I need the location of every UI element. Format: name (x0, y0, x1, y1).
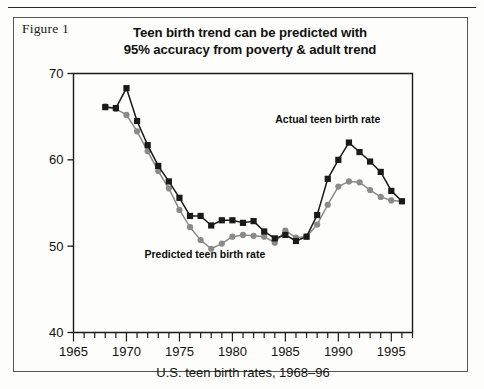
data-point-marker (250, 218, 256, 224)
series-actual (102, 85, 405, 244)
x-axis-tick-label: 1975 (165, 344, 194, 359)
data-point-marker (272, 235, 278, 241)
data-point-marker (378, 169, 384, 175)
data-point-marker (219, 240, 225, 246)
data-point-marker (325, 202, 331, 208)
y-axis-tick-label: 70 (49, 66, 63, 81)
data-point-marker (335, 157, 341, 163)
line-chart-svg: 405060701965197019751980198519901995U.S.… (0, 0, 484, 389)
data-point-marker (187, 224, 193, 230)
data-point-marker (325, 176, 331, 182)
data-point-marker (346, 178, 352, 184)
x-axis-tick-label: 1985 (271, 344, 300, 359)
data-point-marker (176, 207, 182, 213)
data-point-marker (367, 158, 373, 164)
data-point-marker (240, 220, 246, 226)
data-point-marker (388, 188, 394, 194)
data-point-marker (123, 85, 129, 91)
data-point-marker (219, 217, 225, 223)
series-annotation-label: Actual teen birth rate (275, 113, 380, 125)
x-axis-tick-label: 1965 (59, 344, 88, 359)
data-point-marker (155, 163, 161, 169)
data-point-marker (314, 221, 320, 227)
x-axis-tick-label: 1970 (112, 344, 141, 359)
y-axis-tick-label: 60 (49, 152, 63, 167)
data-point-marker (303, 234, 309, 240)
data-point-marker (367, 187, 373, 193)
data-point-marker (198, 237, 204, 243)
data-point-marker (102, 104, 108, 110)
y-axis-tick-label: 50 (49, 239, 63, 254)
data-point-marker (293, 238, 299, 244)
data-point-marker (346, 139, 352, 145)
data-point-marker (145, 142, 151, 148)
data-point-marker (356, 179, 362, 185)
figure-page: Figure 1 Teen birth trend can be predict… (0, 0, 484, 389)
data-point-marker (250, 233, 256, 239)
data-point-marker (166, 178, 172, 184)
series-predicted (102, 103, 405, 252)
x-axis-tick-label: 1990 (324, 344, 353, 359)
y-axis-tick-label: 40 (49, 325, 63, 340)
data-point-marker (113, 105, 119, 111)
data-point-marker (314, 212, 320, 218)
data-point-marker (378, 194, 384, 200)
data-point-marker (399, 198, 405, 204)
series-layer (102, 85, 405, 252)
data-point-marker (134, 128, 140, 134)
data-point-marker (123, 112, 129, 118)
x-axis-title: U.S. teen birth rates, 1968–96 (156, 365, 329, 380)
data-point-marker (388, 197, 394, 203)
series-line (105, 106, 402, 248)
data-point-marker (208, 222, 214, 228)
data-point-marker (198, 213, 204, 219)
chart-plot-area: 405060701965197019751980198519901995U.S.… (0, 0, 484, 389)
data-point-marker (356, 149, 362, 155)
x-axis-tick-label: 1980 (218, 344, 247, 359)
data-point-marker (335, 184, 341, 190)
data-point-marker (187, 213, 193, 219)
x-axis-tick-label: 1995 (377, 344, 406, 359)
data-point-marker (134, 118, 140, 124)
data-point-marker (229, 234, 235, 240)
series-annotation-label: Predicted teen birth rate (144, 248, 265, 260)
data-point-marker (261, 228, 267, 234)
data-point-marker (176, 195, 182, 201)
data-point-marker (282, 232, 288, 238)
data-point-marker (240, 232, 246, 238)
data-point-marker (229, 217, 235, 223)
